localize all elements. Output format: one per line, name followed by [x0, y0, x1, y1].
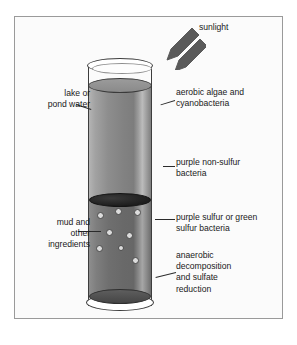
- mud-surface-ellipse: [89, 193, 151, 207]
- label-purple-sulfur-or-green-sulfur-bacteria: purple sulfur or green sulfur bacteria: [176, 212, 292, 234]
- leader-line-purple-sulfur: [155, 219, 175, 220]
- leader-line-purple-non-sulfur: [163, 166, 175, 167]
- gas-bubble: [134, 209, 141, 216]
- winogradsky-column-figure: sunlight lake or pond water mud and: [0, 0, 297, 345]
- gas-bubble: [132, 257, 139, 264]
- label-sunlight: sunlight: [199, 22, 259, 33]
- gas-bubble: [96, 245, 103, 252]
- water-column-fill: [89, 85, 151, 200]
- label-aerobic-algae-and-cyanobacteria: aerobic algae and cyanobacteria: [176, 87, 288, 109]
- cylinder-top-rim-inner: [92, 63, 152, 74]
- gas-bubble: [118, 245, 124, 251]
- gas-bubble: [97, 212, 104, 219]
- cylinder-base-inner: [89, 289, 151, 304]
- winogradsky-column: [86, 56, 156, 312]
- gas-bubble: [115, 208, 122, 215]
- gas-bubble: [106, 229, 113, 236]
- label-lake-or-pond-water: lake or pond water: [22, 88, 90, 110]
- gas-bubble: [126, 232, 133, 239]
- label-purple-non-sulfur-bacteria: purple non-sulfur bacteria: [176, 157, 288, 179]
- label-anaerobic-decomposition-and-sulfate-reduction: anaerobic decomposition and sulfate redu…: [176, 250, 288, 295]
- label-mud-and-other-ingredients: mud and other ingredients: [14, 217, 90, 251]
- water-surface-ellipse: [88, 78, 152, 93]
- cylinder-top-rim: [87, 58, 153, 73]
